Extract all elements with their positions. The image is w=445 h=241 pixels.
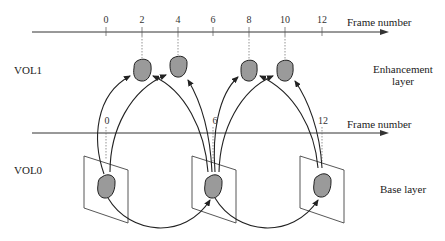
enhancement-layer-label: Enhancement layer bbox=[372, 63, 434, 87]
base-objects bbox=[98, 174, 331, 198]
enhancement-layer-label-line1: Enhancement bbox=[372, 63, 434, 75]
enhancement-layer-label-line2: layer bbox=[372, 75, 434, 87]
enhancement-drop-lines bbox=[142, 36, 285, 59]
bottom-tick-6: 6 bbox=[213, 115, 218, 126]
bottom-tick-12: 12 bbox=[318, 115, 328, 126]
top-tick-0: 0 bbox=[104, 14, 109, 25]
axis-arrow-icon bbox=[380, 29, 389, 35]
bottom-frame-axis bbox=[32, 130, 389, 136]
bottom-axis-label: Frame number bbox=[347, 118, 411, 130]
object-frame-6 bbox=[205, 175, 222, 198]
object-frame-8 bbox=[241, 60, 257, 81]
top-tick-2: 2 bbox=[140, 14, 145, 25]
object-frame-10 bbox=[277, 60, 293, 81]
top-tick-6: 6 bbox=[211, 14, 216, 25]
top-tick-10: 10 bbox=[280, 14, 290, 25]
inter-layer-prediction-arrows bbox=[98, 75, 322, 174]
object-frame-0 bbox=[98, 175, 115, 198]
axis-arrow-icon bbox=[380, 130, 389, 136]
top-frame-axis bbox=[32, 27, 389, 36]
base-layer-label: Base layer bbox=[380, 183, 426, 195]
object-frame-12 bbox=[314, 174, 331, 197]
top-tick-12: 12 bbox=[317, 14, 327, 25]
object-frame-4 bbox=[170, 56, 187, 77]
top-axis-label: Frame number bbox=[347, 16, 411, 28]
object-frame-2 bbox=[134, 59, 151, 81]
top-tick-4: 4 bbox=[176, 14, 181, 25]
top-tick-8: 8 bbox=[247, 14, 252, 25]
bottom-tick-0: 0 bbox=[105, 115, 110, 126]
vol0-label: VOL0 bbox=[14, 164, 42, 176]
vol1-label: VOL1 bbox=[14, 64, 42, 76]
